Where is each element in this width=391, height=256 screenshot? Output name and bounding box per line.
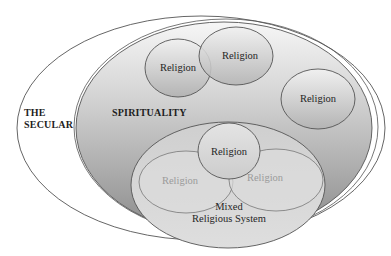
secular-label-line2: SECULAR <box>24 119 74 130</box>
mixed-religion-left-label: Religion <box>162 175 199 186</box>
mixed-system-label-line1: Mixed <box>215 201 243 212</box>
religion-label-2: Religion <box>222 50 259 61</box>
spirituality-label: SPIRITUALITY <box>112 107 187 118</box>
religion-label-3: Religion <box>300 93 337 104</box>
mixed-system-label-line2: Religious System <box>192 213 266 224</box>
secular-label-line1: THE <box>24 107 46 118</box>
religion-label-1: Religion <box>160 62 197 73</box>
mixed-religion-top-label: Religion <box>211 146 248 157</box>
secular-spirituality-diagram: THE SECULAR SPIRITUALITY Religion Religi… <box>0 0 391 256</box>
mixed-religion-right-label: Religion <box>247 172 284 183</box>
